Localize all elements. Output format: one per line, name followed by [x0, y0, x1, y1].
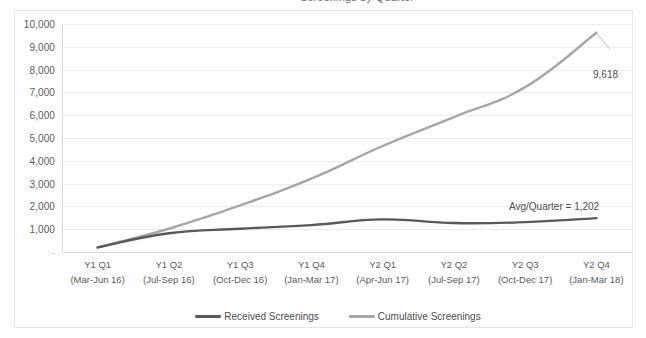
- y-axis-tick-label: 9,000: [29, 41, 55, 52]
- x-axis-tick-y2-q2: Y2 Q2(Jul-Sep 17): [428, 257, 480, 287]
- y-axis-tick-label: 2,000: [29, 201, 55, 212]
- x-tick-months: (Oct-Dec 17): [498, 272, 552, 287]
- x-axis-tick-y2-q1: Y2 Q1(Apr-Jun 17): [356, 257, 409, 287]
- legend-item-cumulative-screenings[interactable]: Cumulative Screenings: [349, 311, 481, 322]
- x-tick-quarter: Y2 Q1: [356, 257, 409, 272]
- peak-label-leader-line: [596, 33, 610, 50]
- x-tick-quarter: Y2 Q2: [428, 257, 480, 272]
- plot-area: 10,0009,0008,0007,0006,0005,0004,0003,00…: [62, 24, 632, 252]
- legend-item-received-screenings[interactable]: Received Screenings: [195, 311, 319, 322]
- y-axis-tick-label: 7,000: [29, 87, 55, 98]
- legend-label: Cumulative Screenings: [378, 311, 481, 322]
- x-tick-months: (Jan-Mar 18): [569, 272, 623, 287]
- x-tick-quarter: Y1 Q2: [143, 257, 195, 272]
- x-axis-tick-y1-q2: Y1 Q2(Jul-Sep 16): [143, 257, 195, 287]
- x-axis-tick-y1-q3: Y1 Q3(Oct-Dec 16): [213, 257, 267, 287]
- x-axis-tick-y1-q4: Y1 Q4(Jan-Mar 17): [284, 257, 338, 287]
- peak-value-label: 9,618: [593, 69, 618, 80]
- legend-swatch-icon: [349, 315, 375, 318]
- y-axis-line: [62, 24, 63, 252]
- y-axis-tick-label: 5,000: [29, 133, 55, 144]
- y-axis-tick-label: 3,000: [29, 178, 55, 189]
- x-tick-months: (Oct-Dec 16): [213, 272, 267, 287]
- series-line-cumulative-screenings: [98, 33, 597, 248]
- cut-off-title-sliver: Screenings by Quarter: [0, 0, 646, 9]
- legend-swatch-icon: [195, 315, 221, 318]
- series-lines: [62, 24, 632, 252]
- x-tick-months: (Jul-Sep 17): [428, 272, 480, 287]
- chart-title-text: Screenings by Quarter: [300, 0, 414, 3]
- x-axis-baseline: [62, 252, 632, 253]
- x-axis-tick-y2-q4: Y2 Q4(Jan-Mar 18): [569, 257, 623, 287]
- x-tick-quarter: Y2 Q4: [569, 257, 623, 272]
- x-tick-quarter: Y1 Q4: [284, 257, 338, 272]
- x-tick-months: (Apr-Jun 17): [356, 272, 409, 287]
- legend-label: Received Screenings: [224, 311, 319, 322]
- series-line-received-screenings: [98, 218, 597, 247]
- y-axis-tick-label: 6,000: [29, 110, 55, 121]
- y-axis-tick-label: 4,000: [29, 155, 55, 166]
- y-axis-tick-label: 1,000: [29, 224, 55, 235]
- x-tick-quarter: Y2 Q3: [498, 257, 552, 272]
- x-tick-quarter: Y1 Q3: [213, 257, 267, 272]
- y-axis-tick-label: -: [52, 247, 55, 258]
- x-tick-quarter: Y1 Q1: [70, 257, 124, 272]
- x-tick-months: (Jan-Mar 17): [284, 272, 338, 287]
- x-tick-months: (Mar-Jun 16): [70, 272, 124, 287]
- x-axis-tick-labels: Y1 Q1(Mar-Jun 16)Y1 Q2(Jul-Sep 16)Y1 Q3(…: [62, 257, 632, 302]
- x-axis-tick-y2-q3: Y2 Q3(Oct-Dec 17): [498, 257, 552, 287]
- y-axis-tick-label: 8,000: [29, 64, 55, 75]
- chart-legend: Received ScreeningsCumulative Screenings: [15, 311, 646, 322]
- x-axis-tick-y1-q1: Y1 Q1(Mar-Jun 16): [70, 257, 124, 287]
- average-per-quarter-label: Avg/Quarter = 1,202: [509, 201, 599, 212]
- y-axis-tick-label: 10,000: [24, 19, 55, 30]
- x-tick-months: (Jul-Sep 16): [143, 272, 195, 287]
- chart-container: 10,0009,0008,0007,0006,0005,0004,0003,00…: [14, 10, 633, 328]
